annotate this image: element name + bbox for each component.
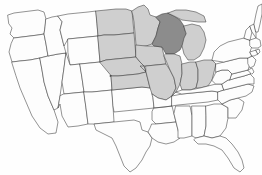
state-TX[interactable] xyxy=(94,120,152,172)
state-NM[interactable] xyxy=(84,90,114,124)
state-LA[interactable] xyxy=(148,122,180,144)
state-ND[interactable] xyxy=(96,9,134,36)
state-NJ[interactable] xyxy=(248,56,256,68)
us-map-svg xyxy=(0,0,262,175)
states-layer xyxy=(8,4,262,172)
state-GA[interactable] xyxy=(204,104,228,138)
state-WA[interactable] xyxy=(8,10,46,38)
state-IN[interactable] xyxy=(180,62,198,90)
state-ME[interactable] xyxy=(254,4,262,32)
us-map-figure xyxy=(0,0,262,175)
state-WY[interactable] xyxy=(68,36,100,65)
state-AZ[interactable] xyxy=(58,92,88,127)
state-OK[interactable] xyxy=(112,87,154,112)
state-MA[interactable] xyxy=(250,38,261,48)
state-AL[interactable] xyxy=(192,106,206,138)
state-OH[interactable] xyxy=(196,60,216,88)
state-FL[interactable] xyxy=(194,136,244,172)
